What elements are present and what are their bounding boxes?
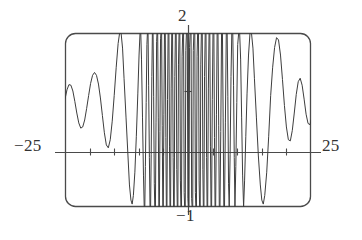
y-max-label: 2 (178, 6, 187, 26)
x-min-label: −25 (14, 136, 42, 156)
plot-canvas (0, 0, 362, 240)
graphing-calculator-figure: −25 25 2 −1 (0, 0, 362, 240)
y-min-label: −1 (176, 206, 195, 226)
x-max-label: 25 (322, 136, 340, 156)
